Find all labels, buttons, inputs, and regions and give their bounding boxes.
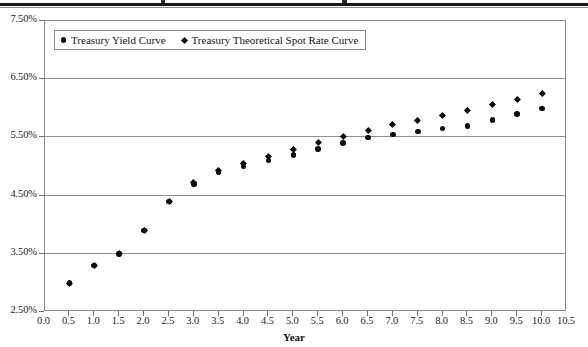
x-axis-tick-mark <box>367 311 368 316</box>
y-axis-tick-mark <box>39 311 44 312</box>
x-axis-tick-mark <box>442 311 443 316</box>
x-axis-tick-mark <box>218 311 219 316</box>
x-axis-tick-mark <box>118 311 119 316</box>
data-point-diamond <box>389 121 396 128</box>
data-point-circle <box>539 106 545 112</box>
x-axis-tick-mark <box>68 311 69 316</box>
x-axis-tick-mark <box>392 311 393 316</box>
data-point-circle <box>365 135 371 141</box>
data-point-circle <box>440 126 446 132</box>
x-axis-tick-mark <box>243 311 244 316</box>
gridline <box>45 78 566 79</box>
data-point-circle <box>340 140 346 146</box>
x-axis-tick-mark <box>417 311 418 316</box>
data-point-circle <box>465 123 471 129</box>
circle-marker-icon <box>61 37 67 43</box>
plot-area: Treasury Yield Curve Treasury Theoretica… <box>44 20 567 311</box>
data-point-circle <box>415 129 421 135</box>
data-point-diamond <box>365 127 372 134</box>
x-axis-tick-mark <box>168 311 169 316</box>
x-axis-tick-label: 10.5 <box>546 315 586 326</box>
chart-legend: Treasury Yield Curve Treasury Theoretica… <box>54 30 367 50</box>
y-axis-tick-label: 3.50% <box>0 246 37 257</box>
gridline <box>45 195 566 196</box>
x-axis-tick-mark <box>541 311 542 316</box>
diamond-marker-icon <box>180 36 187 43</box>
data-point-circle <box>490 117 496 123</box>
x-axis-tick-mark <box>466 311 467 316</box>
y-axis-tick-label: 2.50% <box>0 304 37 315</box>
data-point-diamond <box>489 101 496 108</box>
x-axis-tick-mark <box>193 311 194 316</box>
data-point-diamond <box>290 146 297 153</box>
data-point-diamond <box>141 227 148 234</box>
gridline <box>45 136 566 137</box>
title-underline-rule <box>0 3 588 6</box>
legend-item-treasury-theoretical-spot-rate-curve: Treasury Theoretical Spot Rate Curve <box>182 34 359 46</box>
y-axis-tick-label: 5.50% <box>0 129 37 140</box>
title-descender-glyph <box>342 0 347 3</box>
y-axis-tick-label: 4.50% <box>0 188 37 199</box>
legend-label: Treasury Theoretical Spot Rate Curve <box>192 34 359 46</box>
data-point-diamond <box>414 117 421 124</box>
y-axis-tick-label: 6.50% <box>0 71 37 82</box>
legend-item-treasury-yield-curve: Treasury Yield Curve <box>61 34 166 46</box>
x-axis-tick-mark <box>143 311 144 316</box>
data-point-circle <box>315 146 321 152</box>
x-axis-tick-mark <box>317 311 318 316</box>
data-point-diamond <box>340 133 347 140</box>
title-descender-glyph <box>161 0 165 3</box>
data-point-diamond <box>464 107 471 114</box>
data-point-diamond <box>514 96 521 103</box>
title-underline-rule-thin <box>0 7 588 8</box>
data-point-diamond <box>315 139 322 146</box>
data-point-diamond <box>539 90 546 97</box>
data-point-circle <box>514 111 520 117</box>
x-axis-tick-mark <box>292 311 293 316</box>
data-point-diamond <box>265 153 272 160</box>
y-axis-tick-label: 7.50% <box>0 13 37 24</box>
x-axis-tick-mark <box>491 311 492 316</box>
x-axis-title: Year <box>0 331 588 343</box>
x-axis-tick-mark <box>342 311 343 316</box>
x-axis-tick-mark <box>267 311 268 316</box>
x-axis-tick-mark <box>516 311 517 316</box>
x-axis-tick-mark <box>93 311 94 316</box>
data-point-diamond <box>439 112 446 119</box>
legend-label: Treasury Yield Curve <box>71 34 166 46</box>
data-point-circle <box>390 132 396 138</box>
